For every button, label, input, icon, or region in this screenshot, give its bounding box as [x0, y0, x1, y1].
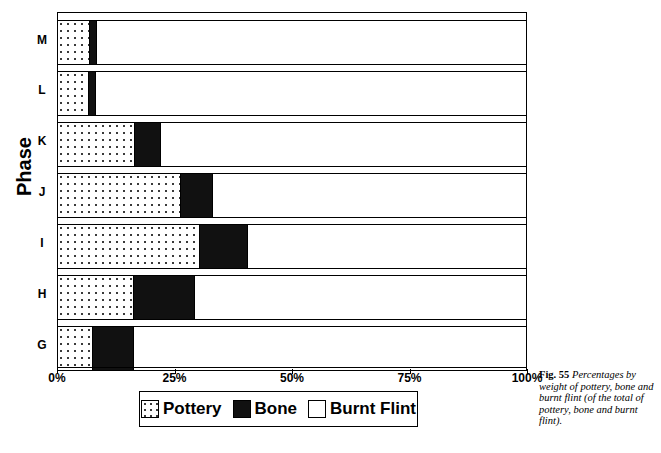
bar-segment-burnt-flint[interactable] [96, 21, 526, 64]
bar-row[interactable] [57, 71, 527, 116]
figure-number: Fig. 55 [539, 369, 569, 380]
bar-row[interactable] [57, 122, 527, 167]
legend-item-burnt-flint: Burnt Flint [308, 399, 416, 419]
legend-label-bone: Bone [255, 399, 298, 419]
legend-swatch-bone-icon [233, 400, 251, 418]
x-tick-label: 25% [148, 371, 202, 385]
bar-segment-bone[interactable] [200, 225, 247, 268]
y-tick-label-k: K [34, 134, 50, 148]
figure-container: Phase M L K J I H G 0%25%50%75%100% Pott… [0, 0, 661, 453]
bar-segment-burnt-flint[interactable] [212, 174, 526, 217]
bar-segment-burnt-flint[interactable] [194, 276, 526, 319]
y-tick-label-i: I [34, 236, 50, 250]
y-tick-label-j: J [34, 185, 50, 199]
y-tick-label-m: M [34, 33, 50, 47]
bar-segment-bone[interactable] [134, 276, 194, 319]
bar-segment-bone[interactable] [93, 327, 133, 370]
x-tick-label: 75% [383, 371, 437, 385]
bar-row[interactable] [57, 275, 527, 320]
legend-item-bone: Bone [233, 399, 298, 419]
bar-row[interactable] [57, 224, 527, 269]
bar-row[interactable] [57, 326, 527, 371]
x-tick-label: 0% [30, 371, 84, 385]
bar-row[interactable] [57, 20, 527, 65]
bar-segment-burnt-flint[interactable] [247, 225, 526, 268]
bar-segment-pottery[interactable] [58, 327, 93, 370]
legend-item-pottery: Pottery [141, 399, 222, 419]
legend-swatch-pottery-icon [141, 400, 159, 418]
legend: Pottery Bone Burnt Flint [139, 391, 418, 427]
legend-swatch-burnt-flint-icon [308, 400, 326, 418]
bar-segment-burnt-flint[interactable] [160, 123, 526, 166]
bar-segment-pottery[interactable] [58, 174, 181, 217]
legend-label-burnt-flint: Burnt Flint [330, 399, 416, 419]
bar-segment-pottery[interactable] [58, 123, 135, 166]
bar-segment-bone[interactable] [181, 174, 213, 217]
plot-area [57, 12, 527, 367]
figure-caption: Fig. 55 Percentages by weight of pottery… [539, 369, 657, 427]
bar-segment-pottery[interactable] [58, 21, 90, 64]
bar-segment-pottery[interactable] [58, 276, 134, 319]
x-axis-line [57, 367, 527, 368]
bar-segment-pottery[interactable] [58, 72, 89, 115]
y-axis-title: Phase [13, 122, 36, 212]
bar-segment-burnt-flint[interactable] [133, 327, 526, 370]
legend-label-pottery: Pottery [163, 399, 222, 419]
y-tick-label-g: G [34, 338, 50, 352]
bar-row[interactable] [57, 173, 527, 218]
y-tick-label-l: L [34, 83, 50, 97]
y-tick-label-h: H [34, 287, 50, 301]
x-tick-label: 50% [265, 371, 319, 385]
bar-segment-burnt-flint[interactable] [95, 72, 526, 115]
bar-segment-pottery[interactable] [58, 225, 200, 268]
bar-segment-bone[interactable] [135, 123, 160, 166]
